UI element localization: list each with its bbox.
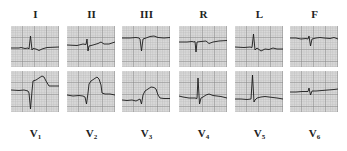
ecg-panel-V4	[179, 71, 227, 112]
lead-label-III: III	[122, 8, 171, 20]
lead-label-R: R	[179, 8, 228, 20]
lead-label-V2: V2	[67, 127, 116, 141]
lead-label-V3: V3	[122, 127, 171, 141]
ecg-panel-II	[67, 26, 115, 67]
lead-label-V4: V4	[179, 127, 228, 141]
ecg-panel-V3	[122, 71, 170, 112]
ecg-panel-III	[122, 26, 170, 67]
ecg-panel-V6	[290, 71, 338, 112]
ecg-panel-V5	[235, 71, 283, 112]
lead-label-F: F	[290, 8, 339, 20]
lead-label-V1: V1	[11, 127, 60, 141]
ecg-panel-R	[179, 26, 227, 67]
ecg-panel-V2	[67, 71, 115, 112]
ecg-panel-V1	[11, 71, 59, 112]
lead-label-V6: V6	[290, 127, 339, 141]
lead-label-V5: V5	[235, 127, 284, 141]
ecg-panel-L	[235, 26, 283, 67]
lead-label-L: L	[235, 8, 284, 20]
lead-label-I: I	[11, 8, 60, 20]
ecg-panel-I	[11, 26, 59, 67]
lead-label-II: II	[67, 8, 116, 20]
ecg-panel-F	[290, 26, 338, 67]
